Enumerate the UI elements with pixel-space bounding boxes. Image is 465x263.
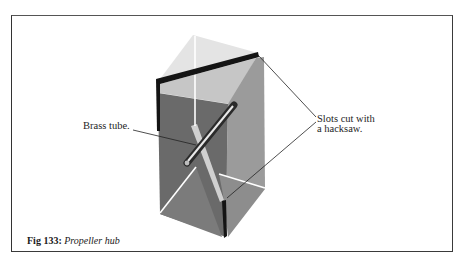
propeller-hub-illustration: [0, 0, 465, 263]
figure-caption: Fig 133: Propeller hub: [27, 235, 120, 246]
figure-title: Propeller hub: [64, 235, 119, 246]
brass-tube-label: Brass tube.: [83, 121, 130, 131]
figure-number: Fig 133:: [27, 235, 62, 246]
leader-slot-top: [258, 55, 316, 117]
slots-label-line2: a hacksaw.: [317, 124, 375, 134]
slots-label: Slots cut with a hacksaw.: [317, 114, 375, 134]
slot-left: [156, 79, 160, 131]
